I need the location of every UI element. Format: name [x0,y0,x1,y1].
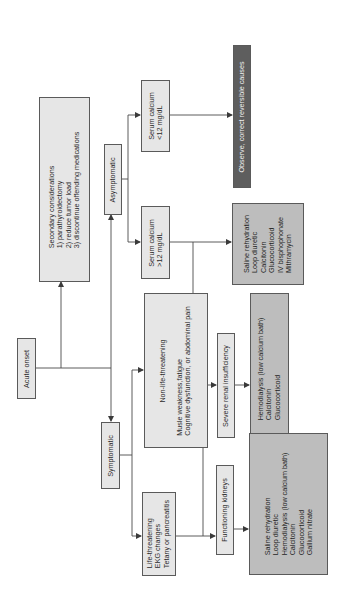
observe-text: Observe, correct reversible causes [238,61,246,172]
treatment-high-calcium-box: Saline rehydration Loop diuretic Calcito… [232,203,304,285]
treatment-renal-text: Hemodialysis (low calcium bath) Calciton… [257,318,282,421]
treatment-life-item-4: Calcitonin [289,453,297,556]
treatment-life-threatening-text: Saline rehydration Loop diuretic Hemodia… [263,453,313,556]
observe-label: Observe, correct reversible causes [238,61,246,172]
life-threatening-symptom-2: Tetany or pancreatitis [163,500,171,568]
asymptomatic-label: Asymptomatic [109,157,117,202]
treatment-life-item-6: Gallium nitrate [305,453,313,556]
asymptomatic-box: Asymptomatic [104,144,122,215]
secondary-considerations-text: Secondary considerations 1) parathyroide… [48,131,82,248]
secondary-item-3: 3) discontinue offending medications [73,131,81,248]
asymptomatic-text: Asymptomatic [109,157,117,202]
non-life-threatening-box: Non-life-threatening Musle weakness,fati… [144,293,208,448]
treatment-renal-box: Hemodialysis (low calcium bath) Calciton… [250,293,289,445]
functioning-kidneys-box: Functioning kidneys [216,465,234,555]
treatment-high-item-6: Mithramycin [285,215,293,273]
life-threatening-text: Life-threatening EKG changes Tetany or p… [146,500,171,568]
symptomatic-text: Symptomatic [106,435,114,477]
severe-renal-insufficiency-label: Severe renal insufficiency [222,345,230,427]
serum-calcium-high-text: Serum calcium >12 mg/dL [147,219,164,267]
acute-onset-label: Acute onset [22,350,30,388]
acute-onset-box: Acute onset [17,338,36,399]
serum-calcium-high-box: Serum calcium >12 mg/dL [141,206,170,279]
serum-calcium-low-box: Serum calcium <12 mg/dL [141,80,170,152]
treatment-renal-item-3: Glucocorticoid [274,318,282,421]
symptomatic-label: Symptomatic [106,435,114,477]
non-life-threatening-symptom-2: Cognitive dysfunction, or abdominal pain [184,306,192,435]
treatment-high-calcium-text: Saline rehydration Loop diuretic Calcito… [243,215,293,273]
serum-calcium-high-line-2: >12 mg/dL [156,219,164,267]
symptomatic-box: Symptomatic [101,422,120,489]
severe-renal-insufficiency-text: Severe renal insufficiency [222,345,230,427]
functioning-kidneys-text: Functioning kidneys [221,478,229,542]
severe-renal-insufficiency-box: Severe renal insufficiency [217,333,235,438]
life-threatening-box: Life-threatening EKG changes Tetany or p… [142,492,176,576]
non-life-threatening-title: Non-life-threatening [159,306,167,435]
functioning-kidneys-label: Functioning kidneys [221,478,229,542]
non-life-threatening-text: Non-life-threatening Musle weakness,fati… [159,306,193,435]
treatment-life-threatening-box: Saline rehydration Loop diuretic Hemodia… [249,433,328,575]
serum-calcium-low-line-2: <12 mg/dL [156,92,164,140]
hypercalcemia-flowchart: Acute onset Secondary considerations 1) … [0,0,340,599]
observe-box: Observe, correct reversible causes [233,45,251,188]
secondary-considerations-box: Secondary considerations 1) parathyroide… [39,97,90,282]
acute-onset-text: Acute onset [22,350,30,388]
serum-calcium-low-text: Serum calcium <12 mg/dL [147,92,164,140]
